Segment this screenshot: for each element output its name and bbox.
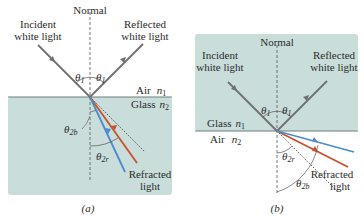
reflected-label-1: Reflected — [124, 18, 167, 30]
incident-ray — [38, 45, 90, 97]
incident-label-2: white light — [196, 61, 243, 73]
air-label: Airn1 — [136, 84, 166, 98]
refracted-label-2: light — [330, 180, 350, 192]
normal-label: Normal — [73, 4, 107, 16]
air-label: Airn2 — [210, 133, 241, 147]
caption-a: (a) — [82, 202, 95, 215]
panel-b: Normal Incident white light Reflected wh… — [195, 34, 358, 215]
incident-label-1: Incident — [20, 18, 56, 30]
caption-b: (b) — [271, 202, 284, 215]
refracted-label-2: light — [140, 180, 160, 192]
glass-label: Glassn1 — [207, 117, 245, 131]
theta2r-label: θ2r — [282, 150, 295, 164]
refraction-diagram: Normal Incident white light Reflected wh… — [0, 0, 364, 216]
panel-a: Normal Incident white light Reflected wh… — [8, 4, 172, 215]
reflected-label-2: white light — [310, 61, 357, 73]
theta1-left-label: θ1 — [75, 71, 84, 85]
reflected-label-1: Reflected — [313, 49, 356, 61]
incident-label-1: Incident — [202, 49, 238, 61]
refracted-label-1: Refracted — [311, 168, 354, 180]
theta2b-label: θ2b — [296, 177, 309, 191]
reflected-label-2: white light — [121, 30, 168, 42]
incident-label-2: white light — [14, 30, 61, 42]
theta1-right-label: θ1 — [96, 71, 105, 85]
refracted-label-1: Refracted — [129, 168, 172, 180]
glass-label: Glassn2 — [131, 98, 169, 112]
normal-label: Normal — [260, 36, 294, 48]
